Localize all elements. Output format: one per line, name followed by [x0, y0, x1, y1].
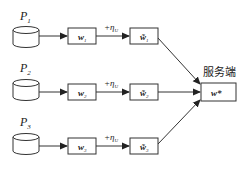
- global-model-label: w*: [211, 88, 222, 98]
- server: 服务端 w*: [201, 66, 236, 101]
- arrow-upload-3: [158, 100, 200, 144]
- participant-row-2: P2 w2 +ηU w̃2: [13, 61, 200, 101]
- participant-row-3: P3 w3 +ηU w̃3: [13, 100, 200, 155]
- noise-label-2: +ηU: [104, 78, 119, 89]
- database-icon: [13, 80, 39, 101]
- noise-label-3: +ηU: [104, 132, 119, 143]
- database-icon: [13, 27, 39, 48]
- participant-label-3: P3: [19, 115, 31, 131]
- arrow-upload-1: [158, 38, 200, 84]
- database-icon: [13, 134, 39, 155]
- participant-label-2: P2: [19, 61, 31, 77]
- participant-label-1: P1: [19, 9, 31, 25]
- noise-label-1: +ηU: [104, 22, 119, 33]
- participant-row-1: P1 w1 +ηU w̃1: [13, 9, 200, 84]
- federated-learning-diagram: P1 w1 +ηU w̃1 P2 w2 +ηU w̃2 P3: [0, 0, 245, 174]
- server-label: 服务端: [203, 66, 236, 78]
